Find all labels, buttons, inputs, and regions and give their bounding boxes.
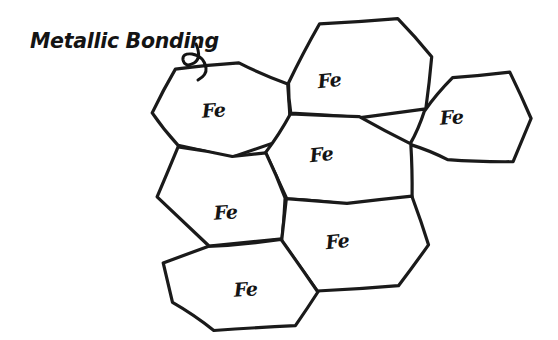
cell-label-fe: Fe (323, 229, 350, 253)
hexagon-lattice-layer (152, 19, 531, 331)
cell-middle-left[interactable] (157, 147, 285, 246)
cell-center[interactable] (266, 114, 413, 205)
cell-label-fe: Fe (315, 68, 342, 92)
cell-label-fe: Fe (200, 98, 226, 122)
cell-label-fe: Fe (438, 105, 464, 129)
metallic-bonding-diagram: FeFeFeFeFeFeFe Metallic Bonding (0, 0, 558, 340)
cell-top-middle[interactable] (288, 19, 431, 118)
diagram-canvas: FeFeFeFeFeFeFe Metallic Bonding (0, 0, 558, 340)
cell-label-fe: Fe (232, 277, 258, 301)
diagram-title: Metallic Bonding (30, 29, 219, 53)
cell-label-fe: Fe (212, 200, 238, 224)
cell-label-fe: Fe (307, 142, 334, 166)
